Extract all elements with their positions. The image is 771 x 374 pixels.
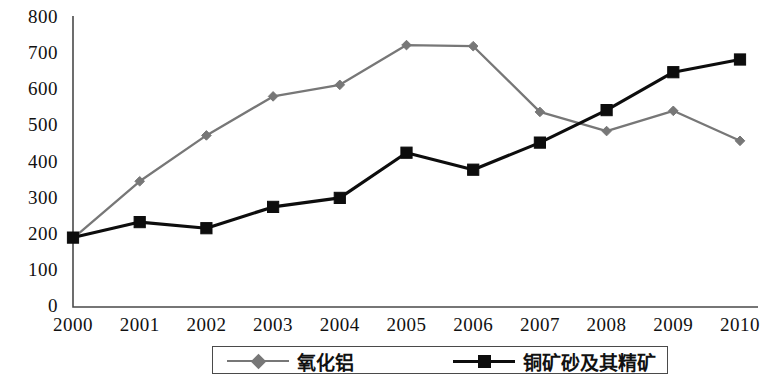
- y-axis-tick-100: 100: [12, 259, 58, 281]
- legend-label-copper-ore: 铜矿砂及其精矿: [523, 348, 656, 374]
- x-axis-tick-2010: 2010: [705, 314, 771, 336]
- data-point-marker: [602, 126, 612, 136]
- y-axis-tick-500: 500: [12, 114, 58, 136]
- x-axis-tick-2001: 2001: [105, 314, 175, 336]
- data-point-marker: [268, 92, 278, 102]
- y-axis-tick-800: 800: [12, 6, 58, 28]
- x-axis-tick-2006: 2006: [438, 314, 508, 336]
- legend-item-alumina: 氧化铝: [227, 347, 354, 374]
- data-point-marker: [201, 223, 212, 234]
- x-axis-tick-2008: 2008: [572, 314, 642, 336]
- legend-marker-copper-ore-icon: [453, 354, 515, 368]
- data-point-marker: [401, 147, 412, 158]
- legend-label-alumina: 氧化铝: [297, 348, 354, 374]
- x-axis-tick-2009: 2009: [638, 314, 708, 336]
- data-point-marker: [735, 136, 745, 146]
- x-axis-tick-2007: 2007: [505, 314, 575, 336]
- data-point-marker: [334, 192, 345, 203]
- x-axis-tick-2004: 2004: [305, 314, 375, 336]
- x-axis-tick-2002: 2002: [171, 314, 241, 336]
- x-axis-tick-2000: 2000: [38, 314, 108, 336]
- data-point-marker: [734, 54, 745, 65]
- axis-lines: [73, 16, 758, 307]
- data-point-marker: [601, 105, 612, 116]
- series-line-alumina: [73, 45, 740, 238]
- y-axis-tick-700: 700: [12, 42, 58, 64]
- data-point-marker: [468, 164, 479, 175]
- data-point-marker: [402, 40, 412, 50]
- legend-marker-alumina-icon: [227, 354, 289, 368]
- line-chart: 8007006005004003002001000 20002001200220…: [0, 0, 771, 374]
- legend-item-copper-ore: 铜矿砂及其精矿: [453, 347, 656, 374]
- data-point-marker: [134, 217, 145, 228]
- x-axis-tick-2003: 2003: [238, 314, 308, 336]
- y-axis-tick-600: 600: [12, 78, 58, 100]
- y-axis-tick-400: 400: [12, 151, 58, 173]
- chart-legend: 氧化铝 铜矿砂及其精矿: [212, 346, 668, 374]
- data-point-marker: [669, 106, 679, 116]
- data-point-marker: [668, 67, 679, 78]
- x-axis-tick-2005: 2005: [372, 314, 442, 336]
- data-point-marker: [534, 137, 545, 148]
- data-point-marker: [67, 232, 78, 243]
- data-point-marker: [268, 201, 279, 212]
- y-axis-tick-200: 200: [12, 223, 58, 245]
- y-axis-tick-300: 300: [12, 187, 58, 209]
